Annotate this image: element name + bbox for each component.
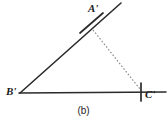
ray-b-through-a — [20, 3, 121, 93]
vertex-label-c: C' — [145, 89, 155, 100]
figure-caption: (b) — [0, 106, 167, 116]
dashed-segment-a-c — [93, 30, 140, 89]
vertex-label-a: A' — [88, 3, 98, 14]
geometry-figure: A' B' C' (b) — [0, 0, 167, 125]
vertex-label-b: B' — [6, 86, 16, 97]
base-line-b-c — [19, 92, 166, 93]
